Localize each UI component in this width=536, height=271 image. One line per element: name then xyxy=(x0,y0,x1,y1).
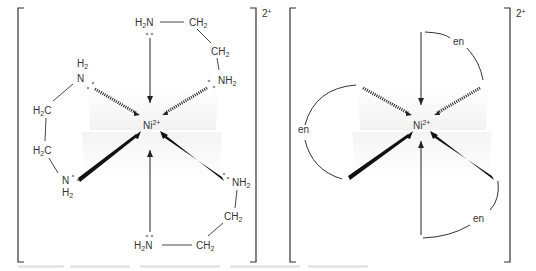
left-bracket-open xyxy=(18,8,24,262)
lone-pair-dot xyxy=(151,33,154,36)
bond-ch2-ch2-left xyxy=(45,118,46,141)
label-bottom-n: H2N xyxy=(134,240,152,252)
label-upper-left-n-h: H2 xyxy=(77,58,88,70)
caption-fragment xyxy=(230,265,300,268)
bond-nh2-ch2-right xyxy=(235,190,237,208)
caption-fragment xyxy=(70,265,130,268)
en-arc-bottom xyxy=(423,225,470,238)
bond-n-ch2-left xyxy=(53,84,73,101)
lone-pair-dot xyxy=(223,173,226,176)
label-lower-left-n: N xyxy=(62,175,69,186)
lone-pair-dot xyxy=(213,86,216,89)
lone-pair-dot xyxy=(72,175,75,178)
caption-fragment xyxy=(140,265,220,268)
lone-pair-dot xyxy=(146,235,149,238)
equatorial-plane-lower xyxy=(352,132,492,178)
octahedral-complex-diagram: 2+ H2N CH2 CH2 NH2 H2 N H2C H2C N xyxy=(0,0,536,271)
right-charge: 2+ xyxy=(516,8,526,19)
equatorial-plane-lower xyxy=(82,132,222,180)
lone-pair-dot xyxy=(151,235,154,238)
right-bracket-open xyxy=(290,8,296,262)
label-top-ch2-a: CH2 xyxy=(189,17,207,29)
right-en-left: en xyxy=(298,124,309,135)
left-bracket-close xyxy=(250,8,256,262)
label-top-ch2-b: CH2 xyxy=(211,46,229,58)
right-en-top: en xyxy=(453,36,464,47)
label-lower-right-n: NH2 xyxy=(232,177,250,189)
right-bracket-close xyxy=(504,8,510,262)
left-panel: 2+ H2N CH2 CH2 NH2 H2 N H2C H2C N xyxy=(18,8,272,262)
label-upper-right-n: NH2 xyxy=(218,75,236,87)
en-arc-bottom xyxy=(490,181,498,210)
left-charge: 2+ xyxy=(262,8,272,19)
label-bottom-ch2-a: CH2 xyxy=(224,211,242,223)
caption-fragment xyxy=(18,265,64,268)
en-arc-top xyxy=(425,32,450,38)
en-arc-left xyxy=(305,140,342,179)
en-arc-top xyxy=(467,48,483,80)
label-left-ch2-a: H2C xyxy=(33,105,51,117)
lone-pair-dot xyxy=(227,177,230,180)
label-upper-left-n: N xyxy=(77,73,84,84)
en-arc-left xyxy=(305,85,356,125)
label-left-ch2-b: H2C xyxy=(33,145,51,157)
bond-top-ch2-ch2 xyxy=(197,29,211,43)
bond-ch2-n-lower-left xyxy=(49,158,58,173)
label-lower-left-n-h: H2 xyxy=(62,187,73,199)
caption-strip xyxy=(0,262,536,271)
lone-pair-dot xyxy=(208,80,211,83)
lone-pair-dot xyxy=(92,82,95,85)
caption-fragment xyxy=(308,265,368,268)
bond-ch2-ch2-bottom xyxy=(208,223,223,236)
lone-pair-dot xyxy=(146,33,149,36)
label-top-n: H2N xyxy=(135,17,153,29)
right-panel: 2+ en en en Ni2+ xyxy=(290,8,526,262)
label-bottom-ch2-b: CH2 xyxy=(196,240,214,252)
right-en-bottom: en xyxy=(473,213,484,224)
bond-ch2-nh2-upper-right xyxy=(217,58,219,70)
lone-pair-dot xyxy=(87,87,90,90)
